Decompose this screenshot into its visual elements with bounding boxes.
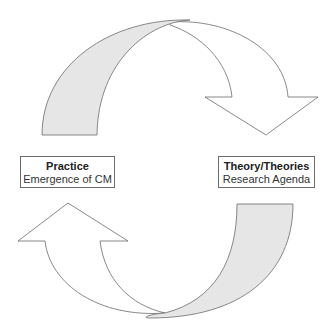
arrow-theory-to-practice [18,203,293,318]
top-arrow-body [170,22,318,135]
node-practice-subtitle: Emergence of CM [21,173,114,186]
node-theory-title: Theory/Theories [219,160,314,173]
node-theory-subtitle: Research Agenda [219,173,314,186]
node-theory: Theory/Theories Research Agenda [218,156,315,188]
top-arrow-band [42,20,190,135]
bottom-arrow-body [18,203,165,314]
arrow-practice-to-theory [42,20,318,135]
node-practice: Practice Emergence of CM [20,156,115,188]
node-practice-title: Practice [21,160,114,173]
bottom-arrow-band [146,204,293,318]
